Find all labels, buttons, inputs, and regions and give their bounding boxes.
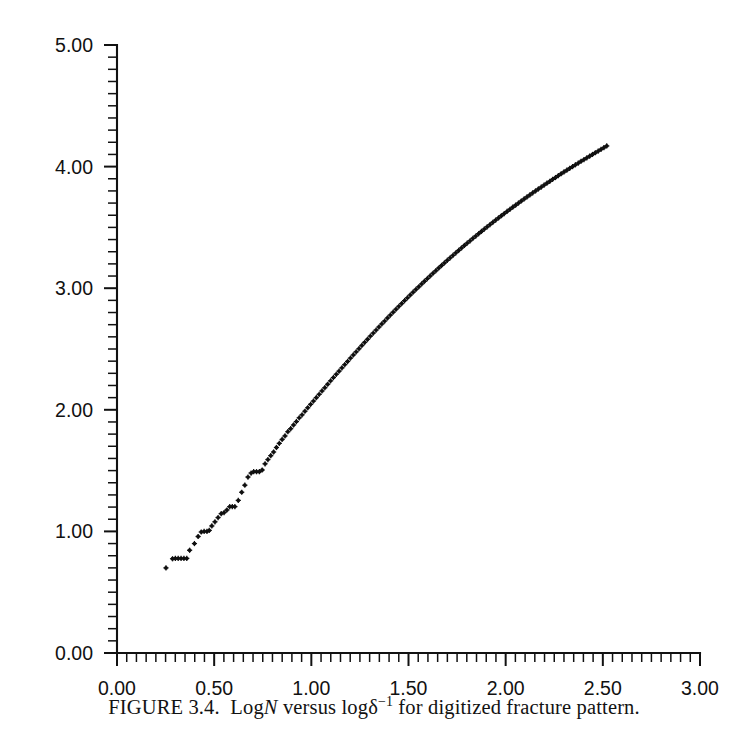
data-point xyxy=(239,490,244,495)
y-axis-tick-labels: 0.001.002.003.004.005.00 xyxy=(55,34,93,664)
data-point xyxy=(163,565,168,570)
caption-versus-text: versus log xyxy=(283,696,368,718)
data-point xyxy=(215,515,220,520)
data-point xyxy=(236,498,241,503)
figure-container: 0.001.002.003.004.005.00 0.000.501.001.5… xyxy=(0,0,748,754)
data-point xyxy=(280,437,285,442)
data-point xyxy=(209,523,214,528)
y-axis-tick-label: 0.00 xyxy=(55,642,93,664)
caption-delta-symbol: δ xyxy=(368,696,378,718)
y-axis-tick-label: 2.00 xyxy=(55,399,93,421)
caption-log-text: Log xyxy=(230,696,263,718)
y-axis-tick-label: 1.00 xyxy=(55,520,93,542)
caption-figure-number: FIGURE 3.4. xyxy=(108,696,220,718)
x-axis-ticks xyxy=(117,653,700,666)
data-point xyxy=(274,445,279,450)
data-point xyxy=(184,556,189,561)
data-point xyxy=(192,541,197,546)
data-point xyxy=(245,474,250,479)
caption-trailing-text: for digitized fracture pattern. xyxy=(398,696,639,718)
data-point xyxy=(268,453,273,458)
data-point xyxy=(262,461,267,466)
y-axis-tick-label: 3.00 xyxy=(55,277,93,299)
data-point xyxy=(232,504,237,509)
data-point xyxy=(271,449,276,454)
data-point xyxy=(242,483,247,488)
data-point xyxy=(282,433,287,438)
axes-group xyxy=(117,45,700,653)
caption-italic-n: N xyxy=(264,696,278,718)
data-point xyxy=(196,534,201,539)
caption-delta-exponent: −1 xyxy=(378,694,393,709)
data-point xyxy=(302,409,307,414)
data-points-layer xyxy=(163,143,609,570)
scatter-plot: 0.001.002.003.004.005.00 0.000.501.001.5… xyxy=(0,0,748,700)
data-point xyxy=(277,441,282,446)
data-point xyxy=(212,519,217,524)
data-point xyxy=(265,457,270,462)
figure-caption: FIGURE 3.4. LogN versus logδ−1 for digit… xyxy=(0,694,748,719)
y-axis-tick-label: 5.00 xyxy=(55,34,93,56)
y-axis-tick-label: 4.00 xyxy=(55,156,93,178)
data-point xyxy=(187,548,192,553)
y-axis-ticks xyxy=(104,45,117,653)
